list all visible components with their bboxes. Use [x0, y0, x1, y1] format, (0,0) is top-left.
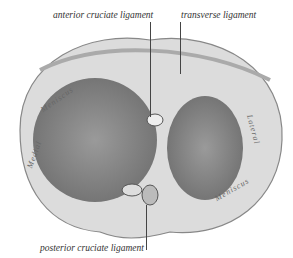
label-posterior-cruciate-ligament: posterior cruciate ligament: [40, 243, 144, 253]
label-transverse-ligament: transverse ligament: [181, 10, 256, 20]
leader-anterior: [150, 22, 151, 117]
label-anterior-cruciate-ligament: anterior cruciate ligament: [53, 10, 153, 20]
leader-posterior: [146, 205, 147, 250]
leader-transverse: [180, 22, 181, 74]
